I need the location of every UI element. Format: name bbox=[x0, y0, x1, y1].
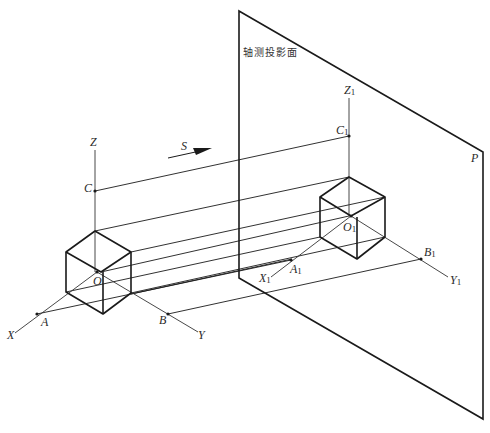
plane-title: 轴测投影面 bbox=[243, 48, 298, 58]
projection-direction-arrow-icon bbox=[168, 148, 212, 158]
x1-axis-label: X1 bbox=[259, 272, 271, 284]
direction-label: S bbox=[181, 140, 187, 152]
y-axis bbox=[97, 272, 198, 332]
projected-cube bbox=[320, 177, 385, 259]
point-c bbox=[93, 189, 96, 192]
point-b bbox=[166, 312, 169, 315]
point-b1-label: B1 bbox=[424, 246, 436, 258]
point-a1-label: A1 bbox=[290, 263, 302, 275]
y1-axis-label: Y1 bbox=[450, 274, 461, 286]
point-a-label: A bbox=[41, 316, 48, 328]
origin-o1-label: O1 bbox=[343, 221, 356, 233]
point-b1 bbox=[419, 257, 422, 260]
y-axis-label: Y bbox=[198, 329, 205, 341]
diagram-drawing bbox=[0, 0, 490, 433]
point-c1-label: C1 bbox=[336, 124, 349, 136]
z-axis-label: Z bbox=[90, 136, 97, 148]
x-axis-label: X bbox=[7, 329, 14, 341]
point-c-label: C bbox=[84, 182, 92, 194]
original-axes bbox=[15, 150, 198, 333]
point-o1 bbox=[349, 214, 352, 217]
point-b-label: B bbox=[159, 314, 166, 326]
x1-axis bbox=[271, 216, 351, 277]
projection-plane bbox=[239, 11, 483, 419]
plane-label: P bbox=[471, 152, 478, 164]
z1-axis-label: Z1 bbox=[344, 84, 355, 96]
axonometric-projection-diagram: 轴测投影面 P S Z C O A X B Y Z1 C1 O1 A1 X1 B… bbox=[0, 0, 490, 433]
point-a bbox=[35, 312, 38, 315]
origin-o-label: O bbox=[93, 275, 102, 287]
